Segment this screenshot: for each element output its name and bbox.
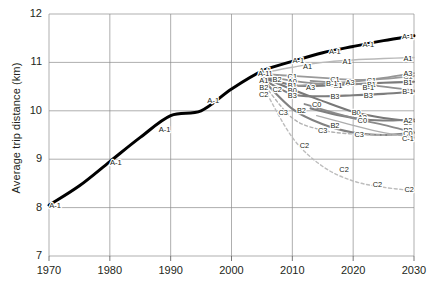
series-inline-label: A3 <box>346 78 355 87</box>
x-axis-tick-label: 2010 <box>270 264 314 276</box>
series-inline-label: B2 <box>297 106 306 115</box>
series-inline-label: C2 <box>272 85 281 94</box>
x-axis-tick-label: 1990 <box>149 264 193 276</box>
series-inline-label: B3 <box>364 91 373 100</box>
series-inline-label: C2 <box>259 90 268 99</box>
x-axis-tick-label: 1970 <box>27 264 71 276</box>
y-axis-tick-label: 7 <box>16 249 42 261</box>
series-inline-label: A-1 <box>207 96 219 105</box>
y-axis-tick-label: 12 <box>16 7 42 19</box>
x-axis-tick-label: 2030 <box>392 264 430 276</box>
x-axis-tick-label: 2020 <box>331 264 375 276</box>
series-inline-label: B1 <box>403 78 412 87</box>
series-inline-label: A1 <box>343 57 352 66</box>
series-inline-label: A-1 <box>362 40 374 49</box>
series-inline-label: C3 <box>278 108 287 117</box>
series-inline-label: A1 <box>303 62 312 71</box>
series-inline-label: A1 <box>403 54 412 63</box>
x-axis-tick-label: 2000 <box>210 264 254 276</box>
series-inline-label: B2 <box>330 121 339 130</box>
series-inline-label: C3 <box>355 130 364 139</box>
series-inline-label: C0 <box>358 116 367 125</box>
line-chart-canvas: A-1A-1A-1A-1A-1A-1A-1A-1A-1A-1A-1A-1A-1A… <box>0 0 430 300</box>
series-inline-label: B3 <box>288 91 297 100</box>
series-inline-label: A-1 <box>402 32 414 41</box>
series-inline-label: C0 <box>312 100 321 109</box>
y-axis-tick-label: 11 <box>16 55 42 67</box>
series-inline-label: B2 <box>273 75 282 84</box>
series-inline-label: B3 <box>330 92 339 101</box>
x-axis-tick-label: 1980 <box>88 264 132 276</box>
y-axis-tick-label: 8 <box>16 201 42 213</box>
series-inline-label: C2 <box>373 180 382 189</box>
y-axis-tick-label: 9 <box>16 152 42 164</box>
series-inline-label: A3 <box>403 69 412 78</box>
series-inline-label: A2 <box>403 116 412 125</box>
chart-root: A-1A-1A-1A-1A-1A-1A-1A-1A-1A-1A-1A-1A-1A… <box>0 0 430 300</box>
series-inline-label: C2 <box>300 141 309 150</box>
series-line-a1 <box>262 58 414 73</box>
y-axis-tick-label: 10 <box>16 104 42 116</box>
series-inline-label: C3 <box>318 126 327 135</box>
series-inline-label: A-1 <box>329 47 341 56</box>
series-inline-label: B-1 <box>402 87 414 96</box>
series-inline-label: A-1 <box>49 201 61 210</box>
series-inline-label: A-1 <box>159 125 171 134</box>
series-inline-label: A-1 <box>110 158 122 167</box>
series-inline-label: B-1 <box>326 79 338 88</box>
series-inline-label: C2 <box>404 185 413 194</box>
series-inline-label: A3 <box>306 83 315 92</box>
series-inline-label: C-1 <box>402 134 414 143</box>
series-inline-label: C2 <box>339 165 348 174</box>
